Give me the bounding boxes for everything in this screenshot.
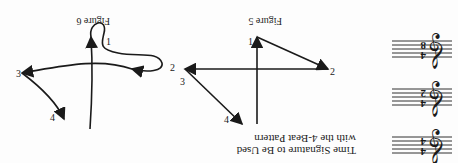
- textbook-page: 𝄞 4 4 𝄞 4 2: [0, 0, 458, 163]
- beat-label-3: 3: [180, 76, 185, 87]
- caption: Time Signature to Be Used with the 4-Bea…: [237, 133, 356, 157]
- treble-clef-icon: 𝄞: [428, 37, 446, 67]
- treble-clef-icon: 𝄞: [428, 133, 446, 163]
- treble-clef-icon: 𝄞: [428, 85, 446, 115]
- time-signature-list: 𝄞 4 4 𝄞 4 2: [372, 4, 452, 159]
- figure-6-diagram: 1 2 3 4 Figure 6: [18, 19, 168, 129]
- four-beat-pattern-angular: 1 2 3 4: [180, 19, 330, 129]
- time-signature-bottom: 2: [421, 89, 427, 99]
- beat-label-1: 1: [106, 36, 111, 47]
- four-beat-pattern-curved: 1 2 3 4: [18, 19, 168, 129]
- beat-label-2: 2: [330, 66, 335, 77]
- beat-label-2: 2: [170, 62, 175, 73]
- beat-label-4: 4: [224, 114, 229, 125]
- beat-label-4: 4: [50, 112, 55, 123]
- time-signature-bottom: 8: [421, 41, 427, 51]
- time-signature-bottom: 4: [421, 137, 427, 147]
- staff-4-8: 𝄞 4 8: [390, 35, 452, 61]
- figure-5-diagram: 1 2 3 4 Figure 5: [190, 19, 330, 129]
- figure-6-label: Figure 6: [76, 16, 110, 27]
- caption-line-1: Time Signature to Be Used: [237, 145, 356, 157]
- beat-label-1: 1: [248, 36, 253, 47]
- caption-line-2: with the 4-Beat Pattern: [237, 133, 356, 145]
- beat-label-3: 3: [16, 68, 21, 79]
- staff-4-4: 𝄞 4 4: [390, 131, 452, 157]
- figure-5-label: Figure 5: [248, 16, 282, 27]
- time-signature-top: 4: [421, 51, 427, 61]
- time-signature-top: 4: [421, 99, 427, 109]
- time-signature-top: 4: [421, 147, 427, 157]
- staff-4-2: 𝄞 4 2: [390, 83, 452, 109]
